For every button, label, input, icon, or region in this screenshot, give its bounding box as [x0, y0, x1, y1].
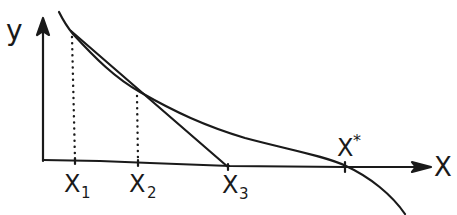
x3-label: X 3 [222, 171, 249, 203]
x1-dotted-guide [72, 37, 75, 160]
x2-dotted-guide [137, 96, 138, 162]
svg-text:1: 1 [81, 184, 91, 202]
svg-text:X: X [64, 170, 80, 198]
x1-label: X 1 [64, 170, 91, 202]
x2-label: X 2 [129, 170, 157, 202]
svg-text:*: * [353, 131, 361, 150]
x-axis [43, 160, 425, 167]
svg-text:X: X [222, 171, 238, 199]
secant-method-diagram: y X X 1 X 2 X 3 X * [0, 0, 457, 215]
x-axis-arrowhead [412, 162, 431, 172]
secant-line [71, 31, 228, 167]
x-axis-label: X [434, 152, 452, 182]
root-label: X * [337, 131, 361, 162]
svg-text:X: X [337, 134, 353, 162]
svg-text:2: 2 [147, 184, 157, 202]
y-axis-label: y [6, 14, 23, 47]
svg-text:3: 3 [239, 185, 249, 203]
svg-text:X: X [129, 170, 145, 198]
